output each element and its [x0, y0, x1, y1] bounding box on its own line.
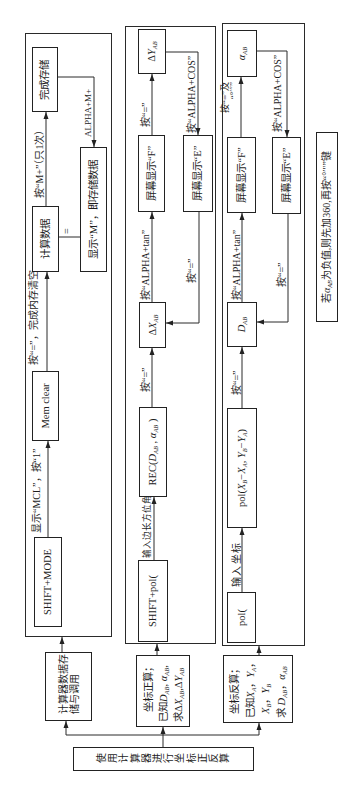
fwd-step4-label: 按“=” [140, 102, 152, 127]
text: − [236, 474, 247, 480]
symbol: α [276, 674, 287, 680]
box-label: pol(XB−XA, YB−YA) [236, 429, 248, 507]
mem-step4-label: 按“M+”（只1次） [34, 125, 46, 198]
category-inverse-title: 坐标反算； [227, 664, 243, 718]
mem-step2-label: 按“=”，完成内存清空 [28, 270, 40, 365]
inv-pol-box: pol( [227, 592, 256, 643]
mem-shift-mode-box: SHIFT+MODE [34, 537, 62, 627]
subscript: A [241, 463, 248, 467]
symbol: α [321, 288, 332, 293]
symbol: Y [260, 688, 271, 694]
subscript: A [250, 668, 257, 672]
subscript: B [241, 480, 248, 484]
subscript: AB [241, 317, 248, 325]
symbol: D [276, 698, 287, 706]
root-label: 使用计算器进行坐标正反算 [96, 753, 230, 765]
category-memory: 计算器数据存 储与调用 [45, 652, 92, 721]
mem-calc-box: 计算数据 [32, 206, 59, 272]
symbol: Y [236, 437, 247, 443]
subscript: AB [241, 47, 248, 55]
fwd-step1-label: 输入边长方位角 [141, 495, 153, 558]
symbol: D [147, 454, 158, 462]
box-label: SHIFT+MODE [42, 549, 54, 615]
subscript: B [241, 448, 248, 452]
category-memory-line: 储与调用 [69, 674, 80, 714]
box-label: ΔXAB [147, 314, 159, 335]
symbol: D [158, 694, 169, 702]
negative-azimuth-note: 若αAB为负值,则先加360,再按“°′″”键 [316, 132, 338, 322]
subscript: AB [178, 691, 185, 699]
fwd-screen-e-box: 屏幕显示“E” [183, 135, 213, 212]
symbol: α [147, 433, 158, 439]
box-label: SHIFT+pol( [147, 575, 159, 627]
text: 求 [173, 712, 184, 722]
box-label: ΔYAB [146, 41, 158, 62]
mem-clear-box: Mem clear [32, 371, 59, 441]
text: 已知 [158, 702, 169, 722]
mem-step1-label: 显示“MCL”，按“1” [31, 449, 43, 533]
subscript: A [241, 433, 248, 437]
note-text: 若αAB为负值,则先加360,再按“°′″”键 [321, 151, 333, 303]
text: REC( [147, 462, 158, 486]
text: , [158, 665, 169, 668]
symbol: Y [236, 452, 247, 458]
category-inverse: 坐标反算； 已知XA，YA， XB，YB 求 DAB，αAB [223, 655, 293, 723]
category-forward-given: 已知DAB, αAB, [156, 665, 171, 722]
inv-distance-box: DAB [227, 302, 257, 347]
inv-step5-label: 按“ALPHA+COS” [272, 55, 284, 132]
text: 已知 [245, 698, 256, 718]
category-inverse-find: 求 DAB，αAB [274, 666, 290, 718]
category-forward: 坐标正算； 已知DAB, αAB, 求ΔXAB,ΔYAB [136, 655, 190, 727]
inv-screen-f-box: 屏幕显示“F” [227, 137, 256, 213]
box-label: pol( [236, 609, 248, 626]
subscript: AB [163, 686, 170, 694]
box-label: 计算数据 [40, 219, 52, 259]
delta: Δ [147, 329, 158, 336]
subscript: AB [151, 41, 158, 49]
symbol: D [236, 325, 247, 333]
symbol: X [147, 322, 158, 328]
mem-display-box: 显示“M”，即存储数据 [80, 147, 107, 272]
symbol: Y [146, 49, 157, 55]
text: ) [147, 419, 158, 425]
category-memory-line: 计算器数据存 [58, 654, 69, 714]
fwd-step2-label: 按“=” [140, 367, 152, 392]
category-forward-title: 坐标正算； [141, 662, 156, 722]
symbol: Y [245, 672, 256, 678]
text: ， [276, 680, 287, 690]
category-forward-find: 求ΔXAB,ΔYAB [171, 668, 186, 722]
subscript: AB [281, 666, 288, 674]
subscript: AB [152, 314, 159, 322]
fwd-shift-pol-box: SHIFT+pol( [138, 560, 168, 642]
inv-step1-label: 输入坐标 [231, 541, 243, 587]
inv-pol-expression-box: pol(XB−XA, YB−YA) [227, 408, 257, 528]
text: 为负值,则先加360,再按“°′″”键 [321, 151, 332, 280]
text: ) [236, 429, 247, 433]
box-label: Mem clear [40, 383, 52, 428]
inv-azimuth-box: αAB [227, 30, 257, 77]
box-label: 完成存储 [39, 60, 51, 100]
subscript: AB [178, 668, 185, 676]
symbol: X [245, 692, 256, 698]
subscript: AB [326, 280, 333, 288]
fwd-step6-label: 按“=” [186, 258, 198, 283]
delta: Δ [173, 681, 184, 688]
calculator-coordinate-flowchart: 使用计算器进行坐标正反算 计算器数据存 储与调用 坐标正算； 已知DAB, αA… [0, 0, 346, 785]
symbol: Y [173, 676, 184, 682]
box-label: 屏幕显示“F” [146, 146, 158, 201]
text: 若 [321, 293, 332, 303]
inv-step2-label: 按“=” [231, 370, 243, 395]
subscript: B [265, 684, 272, 688]
text: , [147, 438, 158, 446]
fwd-delta-y-box: ΔYAB [138, 29, 166, 74]
text: 求 [276, 705, 287, 718]
delta: Δ [146, 55, 157, 62]
subscript: AB [152, 446, 159, 454]
symbol: X [173, 699, 184, 705]
box-label: αAB [236, 47, 248, 60]
mem-equals-label: = [61, 228, 73, 234]
box-label: DAB [236, 317, 248, 333]
fwd-step5-label: 按“ALPHA+COS” [186, 56, 198, 133]
box-label: 显示“M”，即存储数据 [88, 160, 100, 259]
symbol: X [260, 708, 271, 714]
